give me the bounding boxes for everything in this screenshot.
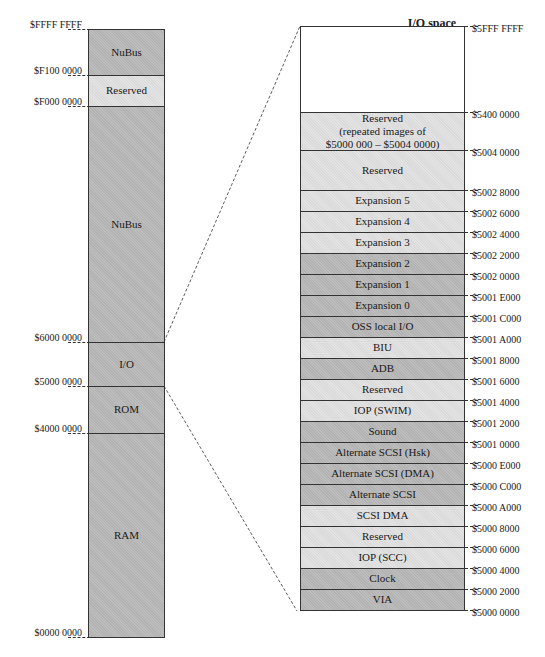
zoom-connector-lines <box>0 0 545 657</box>
